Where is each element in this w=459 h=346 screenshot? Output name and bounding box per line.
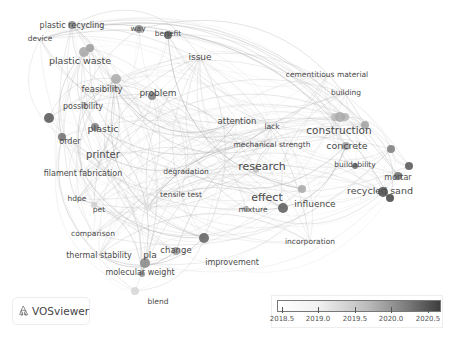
node-label[interactable]: research [238,160,286,173]
vosviewer-logo-icon [19,303,29,319]
node-label[interactable]: plastic recycling [40,21,105,30]
node-label[interactable]: mixture [238,205,267,214]
node-label[interactable]: degradation [163,167,209,176]
node-label[interactable]: mortar [384,173,412,182]
node-label[interactable]: buildability [334,160,376,169]
legend-tick [318,307,319,313]
node-label[interactable]: blend [148,297,169,306]
legend-tick-label: 2020.0 [379,315,404,323]
network-node[interactable] [131,287,139,295]
node-label[interactable]: pla [143,250,157,260]
network-node[interactable] [335,112,345,122]
node-label[interactable]: building [331,88,361,97]
network-node[interactable] [278,203,288,213]
label-layer: plastic recyclingdevicewaybenefitissuepl… [28,21,413,307]
node-label[interactable]: filament fabrication [44,169,123,178]
node-label[interactable]: effect [251,191,283,204]
node-label[interactable]: attention [218,116,257,126]
legend-tick-label: 2019.0 [306,315,331,323]
node-label[interactable]: cementitious material [286,70,368,79]
node-label[interactable]: construction [306,124,371,136]
node-label[interactable]: recycled sand [347,185,413,196]
node-label[interactable]: influence [294,199,336,209]
node-label[interactable]: lack [264,122,280,131]
node-label[interactable]: problem [139,88,176,98]
node-label[interactable]: concrete [326,140,368,151]
legend-tick [282,307,283,313]
logo-text: VOSviewer [32,305,89,317]
node-label[interactable]: plastic waste [49,55,111,66]
network-node[interactable] [144,203,152,211]
network-node[interactable] [140,258,150,268]
network-node[interactable] [405,162,413,170]
node-label[interactable]: feasibility [81,84,122,94]
node-label[interactable]: improvement [205,258,259,267]
node-label[interactable]: printer [86,149,121,160]
node-label[interactable]: mechanical strength [233,140,310,149]
network-node[interactable] [298,185,306,193]
node-label[interactable]: way [130,24,146,33]
network-node[interactable] [44,113,54,123]
node-label[interactable]: hdpe [68,194,87,203]
network-node[interactable] [199,233,209,243]
node-label[interactable]: pet [93,205,105,214]
legend-gradient-bar [277,300,441,312]
node-label[interactable]: benefit [155,29,181,38]
node-label[interactable]: tensile test [160,190,202,199]
node-label[interactable]: incorporation [285,237,335,246]
node-label[interactable]: change [160,245,191,255]
node-label[interactable]: plastic [87,123,118,134]
vosviewer-logo: VOSviewer [12,297,90,325]
legend-tick-label: 2018.5 [270,315,295,323]
node-label[interactable]: molecular weight [105,268,174,277]
color-legend: 2018.5 2019.0 2019.5 2020.0 2020.5 [271,295,443,328]
node-label[interactable]: possibility [63,102,103,111]
legend-tick [355,307,356,313]
node-label[interactable]: order [59,137,81,146]
node-label[interactable]: comparison [71,229,115,238]
legend-tick [391,307,392,313]
legend-tick-label: 2020.5 [416,315,441,323]
network-node[interactable] [387,145,395,153]
node-label[interactable]: device [28,34,53,43]
node-label[interactable]: issue [188,52,212,62]
node-label[interactable]: thermal stability [66,251,132,260]
network-node[interactable] [111,74,121,84]
legend-tick-label: 2019.5 [343,315,368,323]
legend-tick [428,307,429,313]
